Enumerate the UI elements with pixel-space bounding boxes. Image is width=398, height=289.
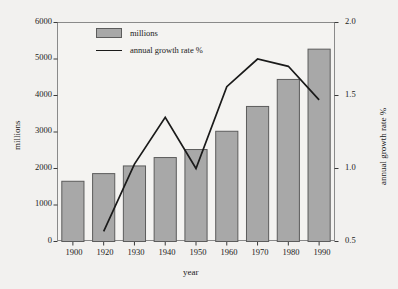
legend-label: annual growth rate % [130,45,203,55]
y-left-tick-label: 6000 [12,17,52,26]
y-right-axis-title: annual growth rate % [378,108,388,185]
line-swatch-icon [96,50,122,51]
x-axis-title: year [183,267,199,277]
y-left-tick-label: 5000 [12,53,52,62]
y-right-tick-label: 1.0 [345,163,375,172]
legend-item-millions: millions [96,26,246,40]
y-left-tick-label: 0 [12,236,52,245]
legend-label: millions [130,28,158,38]
y-left-tick-label: 2000 [12,163,52,172]
chart-container: 6000 5000 4000 3000 2000 1000 0 2.0 1.5 … [0,0,398,289]
y-right-tick-label: 0.5 [345,236,375,245]
y-right-tick-label: 2.0 [345,17,375,26]
y-left-tick-label: 1000 [12,199,52,208]
chart-legend: millions annual growth rate % [96,26,246,60]
y-right-tick-label: 1.5 [345,90,375,99]
y-left-axis-title: millions [12,120,22,150]
legend-item-growth-rate: annual growth rate % [96,43,246,57]
y-left-tick-label: 4000 [12,90,52,99]
x-tick-label: 1990 [302,248,342,257]
bar-swatch-icon [96,28,122,38]
